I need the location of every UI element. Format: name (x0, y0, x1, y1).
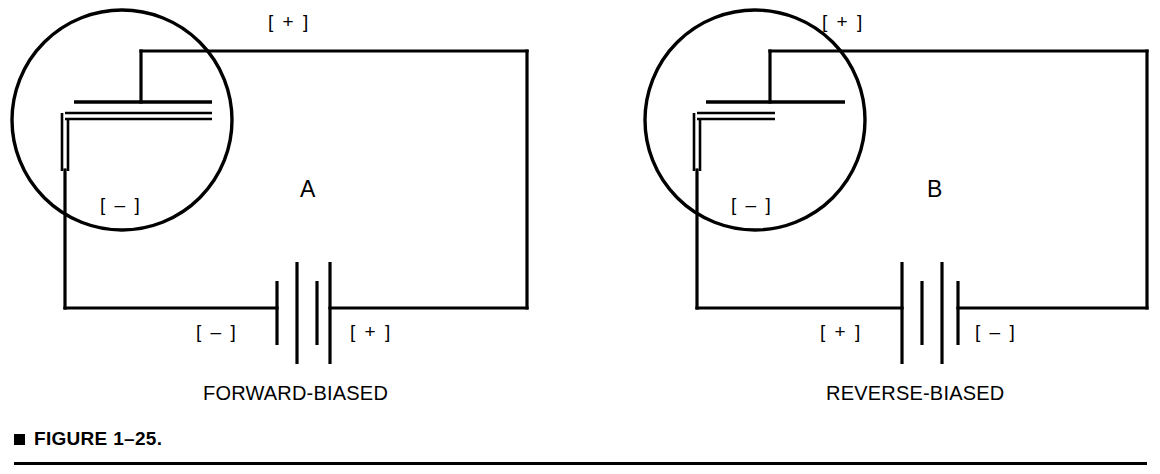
subfigure-letter-a: A (300, 178, 315, 201)
diode-top-polarity-a: [ + ] (268, 12, 310, 31)
diagram-b (645, 10, 1147, 364)
caption-divider-rule (14, 462, 1147, 465)
bias-caption-a: FORWARD-BIASED (203, 383, 388, 403)
cathode-lead-b (694, 113, 700, 171)
battery-right-polarity-a: [ + ] (350, 322, 392, 341)
battery-left-polarity-b: [ + ] (820, 322, 862, 341)
diode-bottom-polarity-b: [ – ] (731, 195, 773, 214)
subfigure-letter-b: B (927, 178, 942, 201)
battery-left-polarity-a: [ – ] (196, 322, 238, 341)
diode-bottom-polarity-a: [ – ] (100, 195, 142, 214)
battery-b (902, 262, 958, 364)
battery-a (277, 262, 330, 364)
bias-caption-b: REVERSE-BIASED (826, 383, 1004, 403)
cathode-lead-a (62, 113, 68, 171)
n-region-plate-b (697, 113, 775, 119)
figure-caption-text: FIGURE 1–25. (34, 428, 162, 450)
diagram-a (12, 10, 527, 364)
figure-page: [ + ] [ – ] A [ – ] [ + ] FORWARD-BIASED… (0, 0, 1160, 474)
n-region-plate-a (65, 113, 212, 119)
figure-caption: FIGURE 1–25. (14, 428, 162, 450)
diode-top-polarity-b: [ + ] (822, 12, 864, 31)
battery-right-polarity-b: [ – ] (975, 322, 1017, 341)
circuit-loop-b (697, 51, 1147, 308)
square-bullet-icon (14, 434, 25, 445)
